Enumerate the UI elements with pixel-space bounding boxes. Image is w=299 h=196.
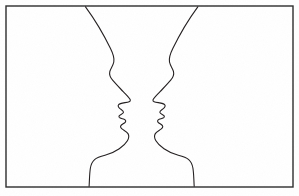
illusion-figure-container: Rubin Vase Face / Vase Figure-Ground Ill… bbox=[0, 0, 299, 196]
rubin-vase-illustration bbox=[0, 0, 299, 196]
figure-background bbox=[0, 0, 299, 196]
